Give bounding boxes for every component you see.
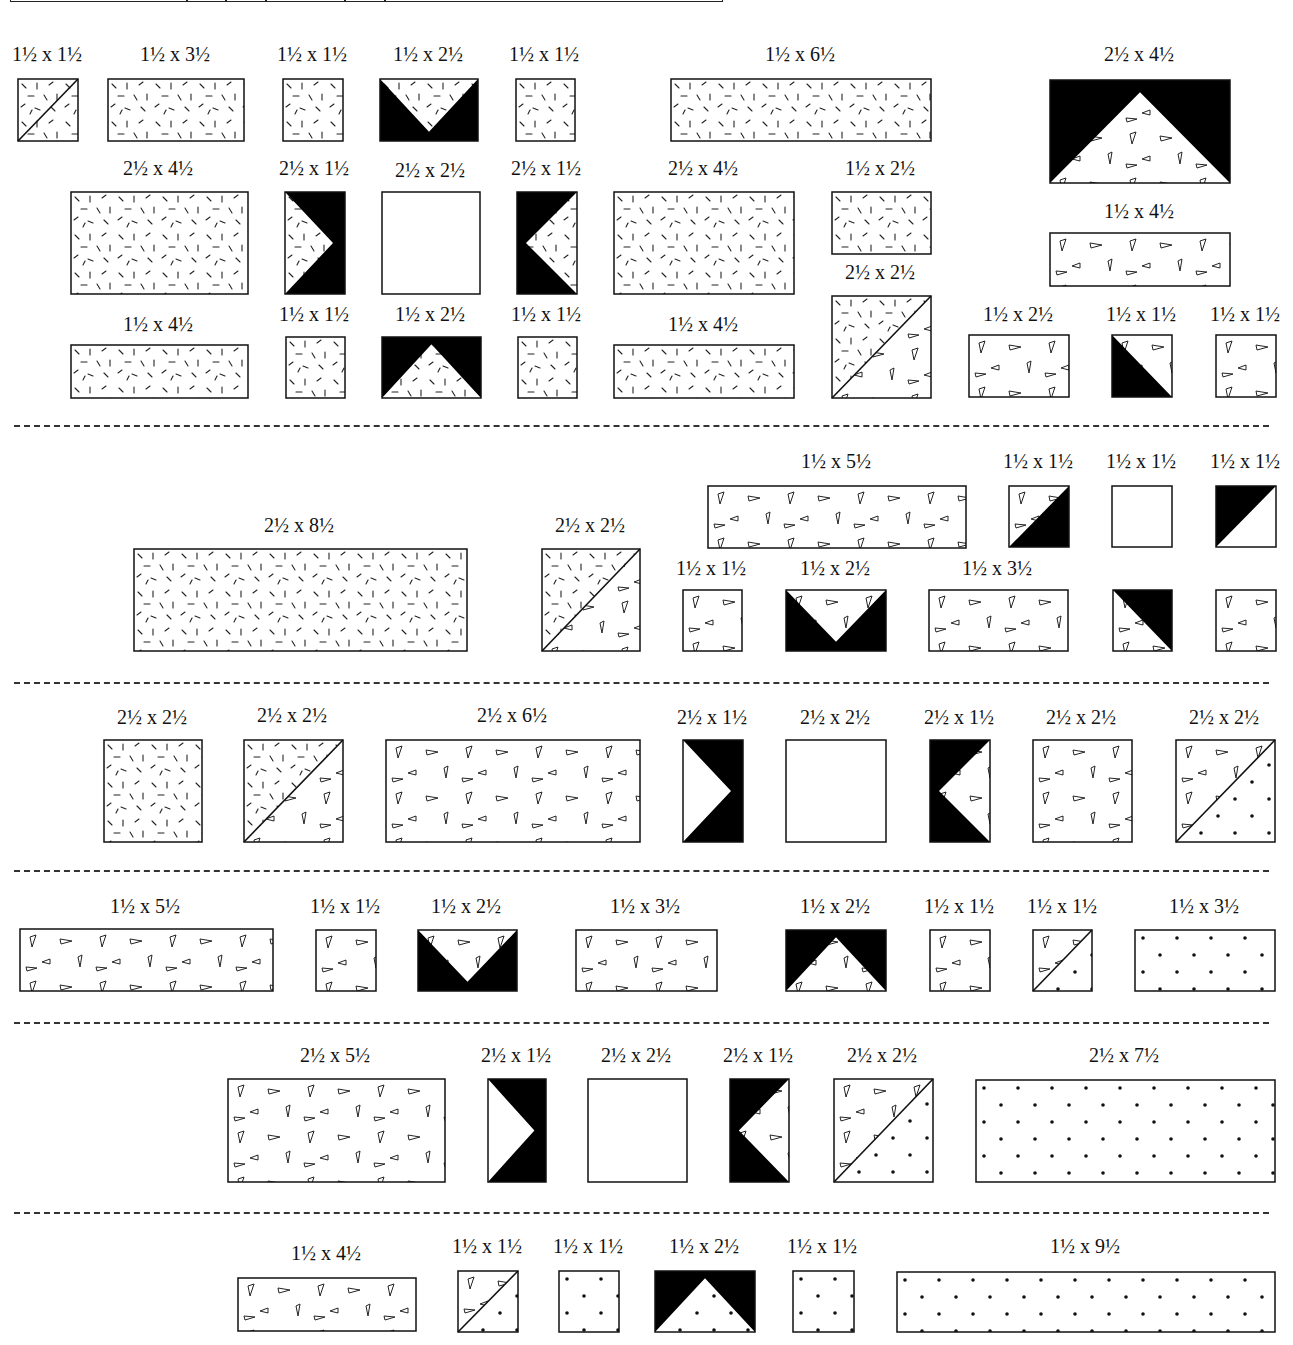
fabric-piece-arrow-left <box>516 191 578 299</box>
piece-dimension-label: 1½ x 2½ <box>669 1236 739 1256</box>
fabric-piece-rect <box>133 548 468 656</box>
piece-dimension-label: 1½ x 4½ <box>1104 201 1174 221</box>
piece-dimension-label: 2½ x 1½ <box>481 1045 551 1065</box>
fabric-piece-diag-line-bl-tr <box>833 1078 934 1187</box>
piece-dimension-label: 1½ x 2½ <box>395 304 465 324</box>
fabric-piece-rect <box>1215 334 1277 402</box>
fabric-piece-rect <box>558 1270 620 1337</box>
fabric-piece-rect <box>575 929 718 996</box>
top-bar-divider <box>344 0 346 1</box>
piece-dimension-label: 1½ x 1½ <box>676 558 746 578</box>
fabric-piece-rect <box>315 929 377 996</box>
fabric-piece-diag-line-bl-tr <box>243 739 344 847</box>
piece-dimension-label: 1½ x 1½ <box>511 304 581 324</box>
fabric-piece-peak-up <box>381 336 482 403</box>
fabric-piece-arrow-right <box>487 1078 547 1187</box>
fabric-piece-half-black-br <box>1008 485 1070 552</box>
fabric-piece-rect <box>682 589 743 656</box>
piece-dimension-label: 2½ x 5½ <box>300 1045 370 1065</box>
piece-dimension-label: 1½ x 1½ <box>310 896 380 916</box>
piece-dimension-label: 1½ x 3½ <box>1169 896 1239 916</box>
piece-dimension-label: 2½ x 7½ <box>1089 1045 1159 1065</box>
fabric-piece-rect <box>613 344 795 403</box>
top-bar-divider <box>225 0 227 1</box>
piece-dimension-label: 1½ x 1½ <box>1210 304 1280 324</box>
piece-dimension-label: 2½ x 2½ <box>555 515 625 535</box>
piece-dimension-label: 1½ x 1½ <box>277 44 347 64</box>
piece-dimension-label: 2½ x 2½ <box>1189 707 1259 727</box>
piece-dimension-label: 2½ x 2½ <box>257 705 327 725</box>
fabric-piece-half-black-tl <box>1215 485 1277 552</box>
piece-dimension-label: 1½ x 1½ <box>924 896 994 916</box>
fabric-piece-diag-line-bl-tr <box>831 295 932 403</box>
fabric-piece-peak-up <box>785 929 887 996</box>
quilt-cutting-diagram: 1½ x 1½1½ x 3½1½ x 1½1½ x 2½1½ x 1½1½ x … <box>0 0 1293 1345</box>
piece-dimension-label: 2½ x 4½ <box>668 158 738 178</box>
piece-dimension-label: 2½ x 2½ <box>800 707 870 727</box>
piece-dimension-label: 1½ x 1½ <box>1027 896 1097 916</box>
fabric-piece-rect <box>227 1078 446 1187</box>
fabric-piece-rect <box>707 485 967 553</box>
fabric-piece-diag-line-bl-tr <box>1032 929 1093 996</box>
piece-dimension-label: 1½ x 1½ <box>553 1236 623 1256</box>
piece-dimension-label: 1½ x 2½ <box>393 44 463 64</box>
top-bar-divider <box>265 0 267 1</box>
fabric-piece-rect <box>1215 589 1277 656</box>
fabric-piece-peak-up <box>654 1270 756 1337</box>
fabric-piece-rect <box>282 78 344 146</box>
piece-dimension-label: 1½ x 2½ <box>800 896 870 916</box>
fabric-piece-diag-line-br <box>17 78 79 146</box>
piece-dimension-label: 1½ x 6½ <box>765 44 835 64</box>
fabric-piece-rect <box>1049 232 1231 291</box>
cut-line-separator <box>14 682 1269 684</box>
piece-dimension-label: 1½ x 1½ <box>787 1236 857 1256</box>
piece-dimension-label: 1½ x 1½ <box>1106 304 1176 324</box>
piece-dimension-label: 2½ x 2½ <box>1046 707 1116 727</box>
piece-dimension-label: 2½ x 1½ <box>677 707 747 727</box>
piece-dimension-label: 1½ x 1½ <box>1106 451 1176 471</box>
piece-dimension-label: 2½ x 2½ <box>117 707 187 727</box>
fabric-piece-rect <box>792 1270 855 1337</box>
piece-dimension-label: 1½ x 1½ <box>452 1236 522 1256</box>
piece-dimension-label: 2½ x 4½ <box>1104 44 1174 64</box>
piece-dimension-label: 1½ x 2½ <box>800 558 870 578</box>
piece-dimension-label: 2½ x 6½ <box>477 705 547 725</box>
cut-line-separator <box>14 870 1269 872</box>
piece-dimension-label: 2½ x 2½ <box>847 1045 917 1065</box>
cut-line-separator <box>14 425 1269 427</box>
piece-dimension-label: 2½ x 1½ <box>511 158 581 178</box>
fabric-piece-arrow-left <box>929 739 991 847</box>
fabric-piece-rect <box>587 1078 688 1187</box>
fabric-piece-diag-line-bl-tr <box>457 1270 519 1337</box>
piece-dimension-label: 1½ x 3½ <box>962 558 1032 578</box>
fabric-piece-rect <box>285 336 346 403</box>
fabric-piece-rect <box>929 929 991 996</box>
piece-dimension-label: 1½ x 2½ <box>431 896 501 916</box>
piece-dimension-label: 2½ x 4½ <box>123 158 193 178</box>
fabric-piece-rect <box>517 336 578 403</box>
fabric-piece-rect <box>385 739 641 847</box>
piece-dimension-label: 1½ x 4½ <box>291 1243 361 1263</box>
fabric-piece-rect <box>70 344 249 403</box>
piece-dimension-label: 1½ x 1½ <box>279 304 349 324</box>
cut-line-separator <box>14 1022 1269 1024</box>
piece-dimension-label: 1½ x 4½ <box>123 314 193 334</box>
fabric-piece-peak-up <box>1049 79 1231 188</box>
fabric-piece-rect <box>928 589 1069 656</box>
fabric-piece-rect <box>381 191 481 299</box>
fabric-piece-rect <box>1134 929 1276 996</box>
piece-dimension-label: 1½ x 3½ <box>140 44 210 64</box>
fabric-piece-rect <box>107 78 245 146</box>
fabric-piece-diag-line-bl-tr <box>541 548 641 656</box>
fabric-piece-rect <box>515 78 576 146</box>
cut-line-separator <box>14 1212 1269 1214</box>
fabric-piece-rect <box>975 1079 1276 1187</box>
piece-dimension-label: 2½ x 1½ <box>279 158 349 178</box>
fabric-piece-arrow-left <box>729 1078 790 1187</box>
fabric-piece-rect <box>785 739 887 847</box>
fabric-piece-half-black-tr <box>1112 589 1173 656</box>
fabric-piece-v-down <box>785 589 887 656</box>
fabric-piece-half-black-bl <box>1111 334 1173 402</box>
fabric-piece-v-down <box>379 78 479 146</box>
piece-dimension-label: 1½ x 1½ <box>1210 451 1280 471</box>
